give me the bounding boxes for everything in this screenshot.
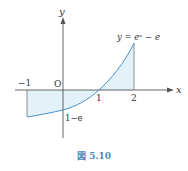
- tick-label-neg1: −1: [18, 78, 31, 88]
- y-axis-label: y: [58, 6, 65, 17]
- figure-canvas: y x O −1 1 2 1−e y = eˣ − e 図 5.10: [0, 0, 188, 171]
- intercept-label: 1−e: [65, 113, 83, 123]
- x-axis-label: x: [176, 84, 182, 95]
- tick-label-2: 2: [131, 93, 137, 103]
- origin-label: O: [54, 79, 61, 89]
- figure-caption: 図 5.10: [77, 151, 111, 161]
- curve-label: y = eˣ − e: [116, 32, 160, 42]
- shaded-area: [27, 43, 134, 117]
- y-axis-arrow-icon: [61, 17, 66, 24]
- tick-label-1: 1: [96, 93, 102, 103]
- x-axis-arrow-icon: [167, 88, 174, 93]
